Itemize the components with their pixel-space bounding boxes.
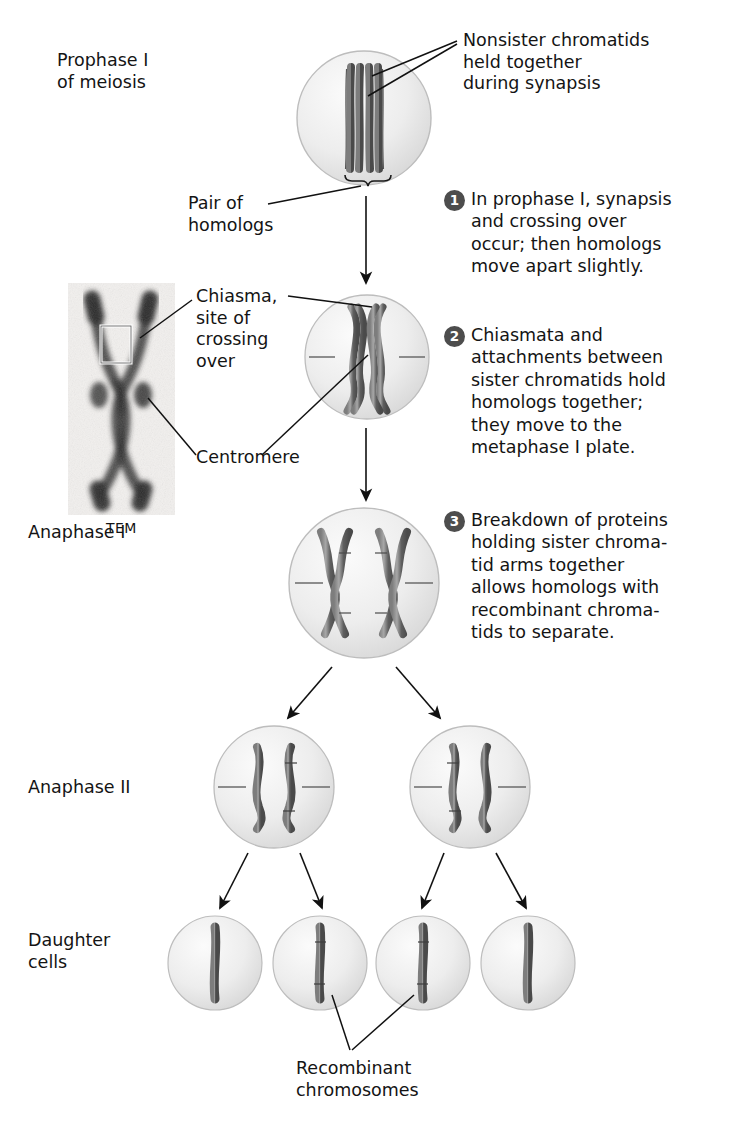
step-badge-1: 1	[444, 190, 465, 211]
flow-arrow-aiir-to-d4	[496, 853, 526, 908]
stage-label-anaphase-ii: Anaphase II	[28, 777, 130, 799]
metaphase-i-cell	[303, 293, 431, 421]
step-badge-3: 3	[444, 511, 465, 532]
flow-arrow-anaphase1-to-aii-left	[288, 667, 332, 718]
step-text-2: Chiasmata and attachments between sister…	[471, 324, 666, 459]
flow-arrow-aiil-to-d2	[300, 853, 322, 908]
tem-caption: TEM	[106, 520, 137, 537]
prophase-i-cell	[295, 49, 433, 187]
anaphase-ii-cell-left	[212, 725, 336, 849]
callout-chiasma: Chiasma, site of crossing over	[196, 286, 277, 373]
flow-arrow-aiir-to-d3	[422, 853, 444, 908]
anaphase-i-cell	[287, 506, 441, 660]
callout-centromere: Centromere	[196, 447, 300, 469]
daughter-cell-3	[375, 915, 471, 1011]
stage-label-prophase: Prophase I of meiosis	[57, 50, 148, 93]
leader-pair-of-homologs	[268, 186, 361, 204]
callout-pair-of-homologs: Pair of homologs	[188, 193, 273, 236]
daughter-cell-1	[167, 915, 263, 1011]
flow-arrow-anaphase1-to-aii-right	[396, 667, 440, 718]
daughter-cell-2	[272, 915, 368, 1011]
step-badge-2: 2	[444, 326, 465, 347]
flow-arrow-aiil-to-d1	[220, 853, 248, 908]
step-text-1: In prophase I, synapsis and crossing ove…	[471, 188, 672, 278]
callout-recombinant-chromosomes: Recombinant chromosomes	[296, 1058, 419, 1101]
daughter-cell-4	[480, 915, 576, 1011]
tem-micrograph	[68, 283, 175, 515]
stage-label-daughter-cells: Daughter cells	[28, 930, 110, 973]
anaphase-ii-cell-right	[408, 725, 532, 849]
step-text-3: Breakdown of proteins holding sister chr…	[471, 509, 668, 644]
callout-nonsister-chromatids: Nonsister chromatids held together durin…	[463, 30, 649, 95]
